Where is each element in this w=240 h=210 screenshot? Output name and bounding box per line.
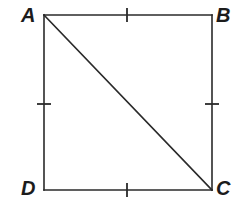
diagonal-AC xyxy=(44,15,212,190)
geometry-figure: A B C D xyxy=(0,0,240,210)
vertex-label-c: C xyxy=(216,178,230,198)
vertex-label-d: D xyxy=(21,178,35,198)
vertex-label-a: A xyxy=(21,5,35,25)
geometry-canvas xyxy=(0,0,240,210)
vertex-label-b: B xyxy=(216,5,230,25)
